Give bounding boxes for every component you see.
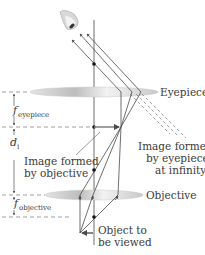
- image-eyepiece-label-line1: Image formed: [138, 140, 205, 152]
- image-objective-label-line2: by objective: [24, 167, 88, 179]
- svg-text:objective: objective: [19, 204, 51, 212]
- f-objective-label: f objective: [13, 197, 51, 212]
- image-objective-label-line1: Image formed: [24, 155, 99, 167]
- image-eyepiece-label-line2: by eyepiece: [146, 152, 205, 164]
- svg-text:eyepiece: eyepiece: [18, 111, 49, 119]
- virtual-rays: [130, 94, 186, 138]
- svg-text:d: d: [10, 136, 17, 149]
- image-leader-line: [76, 132, 100, 155]
- compound-microscope-diagram: Eyepiece Objective Image formed by objec…: [0, 0, 205, 255]
- eyepiece-label: Eyepiece: [160, 86, 205, 98]
- objective-lens: [45, 190, 143, 200]
- image-eyepiece-label-line3: at infinity: [155, 164, 205, 176]
- svg-text:i: i: [17, 143, 20, 151]
- eye-icon: [60, 10, 78, 29]
- objective-label: Objective: [146, 189, 196, 201]
- light-rays: [72, 34, 141, 233]
- object-label-line2: be viewed: [98, 236, 152, 248]
- f-eyepiece-label: f eyepiece: [12, 104, 49, 119]
- object-label-line1: Object to: [98, 224, 147, 236]
- d-i-label: d i: [10, 136, 20, 151]
